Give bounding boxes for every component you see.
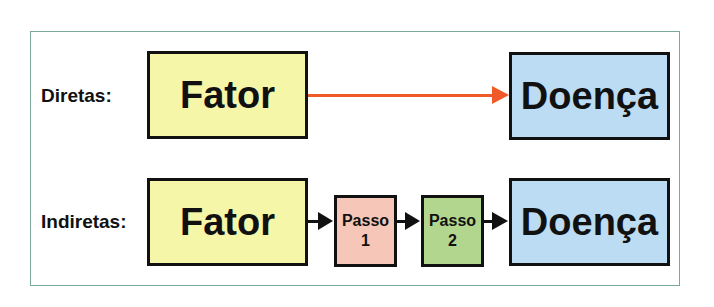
- factor-box-direct: Fator: [147, 51, 308, 139]
- step-2-line2: 2: [448, 231, 457, 251]
- disease-box-direct: Doença: [509, 52, 670, 140]
- indirect-arrow-head-3-icon: [492, 212, 508, 230]
- step-box-1: Passo 1: [334, 195, 397, 267]
- step-1-line1: Passo: [342, 211, 389, 231]
- indirect-arrow-head-1-icon: [318, 212, 333, 230]
- row-label-direct: Diretas:: [41, 85, 112, 107]
- step-box-2: Passo 2: [421, 195, 484, 267]
- step-2-line1: Passo: [429, 211, 476, 231]
- direct-arrow-line: [308, 94, 494, 97]
- step-1-line2: 1: [361, 231, 370, 251]
- indirect-arrow-head-2-icon: [405, 212, 420, 230]
- row-label-indirect: Indiretas:: [41, 211, 127, 233]
- disease-box-indirect: Doença: [509, 178, 670, 266]
- factor-box-indirect: Fator: [147, 178, 308, 266]
- direct-arrow-head-icon: [492, 86, 509, 104]
